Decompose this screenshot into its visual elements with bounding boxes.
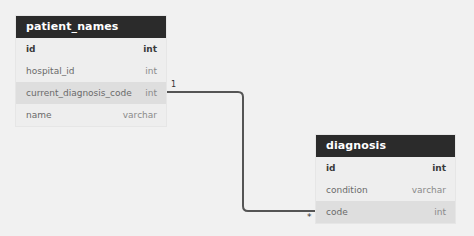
column-type: int (432, 157, 446, 179)
column-type: varchar (412, 179, 446, 201)
column-name: id (26, 38, 36, 60)
table-column-row[interactable]: id int (16, 38, 166, 60)
table-column-row[interactable]: name varchar (16, 104, 166, 126)
table-header[interactable]: patient_names (16, 16, 166, 38)
column-type: int (145, 82, 157, 104)
column-type: int (143, 38, 157, 60)
cardinality-many-label: * (307, 212, 312, 222)
table-patient-names[interactable]: patient_names id int hospital_id int cur… (16, 16, 166, 126)
cardinality-one-label: 1 (171, 80, 176, 89)
column-name: name (26, 104, 52, 126)
table-column-row[interactable]: condition varchar (316, 179, 455, 201)
column-name: code (326, 201, 348, 223)
table-column-row[interactable]: id int (316, 157, 455, 179)
column-name: id (326, 157, 336, 179)
table-column-row[interactable]: hospital_id int (16, 60, 166, 82)
column-name: condition (326, 179, 368, 201)
column-type: int (145, 60, 157, 82)
table-column-row[interactable]: current_diagnosis_code int (16, 82, 166, 104)
column-type: varchar (123, 104, 157, 126)
column-type: int (434, 201, 446, 223)
table-header[interactable]: diagnosis (316, 135, 455, 157)
table-column-row[interactable]: code int (316, 201, 455, 223)
column-name: hospital_id (26, 60, 74, 82)
column-name: current_diagnosis_code (26, 82, 132, 104)
table-diagnosis[interactable]: diagnosis id int condition varchar code … (316, 135, 455, 223)
